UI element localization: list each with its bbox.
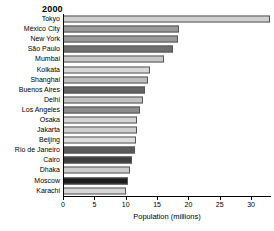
x-tick-label: 0: [61, 201, 65, 209]
bar-row: São Paulo: [0, 44, 274, 54]
bar-row: Mumbai: [0, 54, 274, 64]
category-label: New York: [30, 35, 60, 43]
bar: [63, 26, 179, 33]
bar-row: Tokyo: [0, 14, 274, 24]
bar-row: Cairo: [0, 155, 274, 165]
bar: [63, 137, 136, 144]
bar-row: Beijing: [0, 135, 274, 145]
population-bar-chart: 2000 TokyoMéxico CityNew YorkSão PauloMu…: [0, 0, 274, 231]
x-tick: [94, 196, 95, 200]
bar: [63, 86, 145, 93]
bar-row: México City: [0, 24, 274, 34]
bar: [63, 116, 137, 123]
bar-row: Kolkata: [0, 64, 274, 74]
bar: [63, 66, 150, 73]
chart-title: 2000: [42, 4, 63, 14]
bar-row: Shanghai: [0, 75, 274, 85]
x-tick: [220, 196, 221, 200]
x-axis-title: Population (millions): [63, 212, 271, 221]
x-tick-label: 10: [122, 201, 130, 209]
bar: [63, 167, 130, 174]
x-tick-label: 30: [247, 201, 255, 209]
bar: [63, 36, 178, 43]
x-tick-label: 20: [184, 201, 192, 209]
bar: [63, 56, 164, 63]
x-tick: [251, 196, 252, 200]
category-label: Tokyo: [42, 15, 60, 23]
bar-row: Dhaka: [0, 165, 274, 175]
x-tick: [126, 196, 127, 200]
x-tick: [157, 196, 158, 200]
bar-row: Delhi: [0, 95, 274, 105]
category-label: Mumbai: [35, 55, 60, 63]
bar-row: Buenos Aires: [0, 85, 274, 95]
category-label: Buenos Aires: [19, 86, 60, 94]
category-label: Los Angeles: [22, 106, 60, 114]
bar-row: Jakarta: [0, 125, 274, 135]
bar: [63, 127, 137, 134]
category-label: Karachi: [36, 187, 60, 195]
bar-row: Karachi: [0, 186, 274, 196]
bar: [63, 16, 270, 23]
bar: [63, 96, 143, 103]
bar: [63, 187, 126, 194]
bar-row: Rio de Janeiro: [0, 145, 274, 155]
category-label: Beijing: [39, 136, 60, 144]
category-label: Cairo: [43, 156, 60, 164]
bar: [63, 177, 128, 184]
x-tick-label: 15: [153, 201, 161, 209]
y-axis-line: [63, 14, 64, 196]
bar-row: Osaka: [0, 115, 274, 125]
x-tick-label: 5: [92, 201, 96, 209]
bar: [63, 106, 140, 113]
x-tick-label: 25: [216, 201, 224, 209]
bar: [63, 76, 148, 83]
category-label: Delhi: [44, 96, 60, 104]
category-label: Osaka: [40, 116, 60, 124]
category-label: Moscow: [34, 177, 60, 185]
category-label: Kolkata: [37, 66, 60, 74]
x-tick: [188, 196, 189, 200]
category-label: Dhaka: [40, 166, 60, 174]
category-label: México City: [24, 25, 60, 33]
category-label: São Paulo: [28, 45, 60, 53]
category-label: Shanghai: [30, 76, 60, 84]
bar: [63, 157, 132, 164]
plot-area: TokyoMéxico CityNew YorkSão PauloMumbaiK…: [0, 14, 274, 196]
bar-row: Los Angeles: [0, 105, 274, 115]
category-label: Jakarta: [37, 126, 60, 134]
x-tick: [63, 196, 64, 200]
bar-row: Moscow: [0, 176, 274, 186]
bar-row: New York: [0, 34, 274, 44]
category-label: Rio de Janeiro: [15, 146, 60, 154]
bar: [63, 46, 173, 53]
bar: [63, 147, 135, 154]
